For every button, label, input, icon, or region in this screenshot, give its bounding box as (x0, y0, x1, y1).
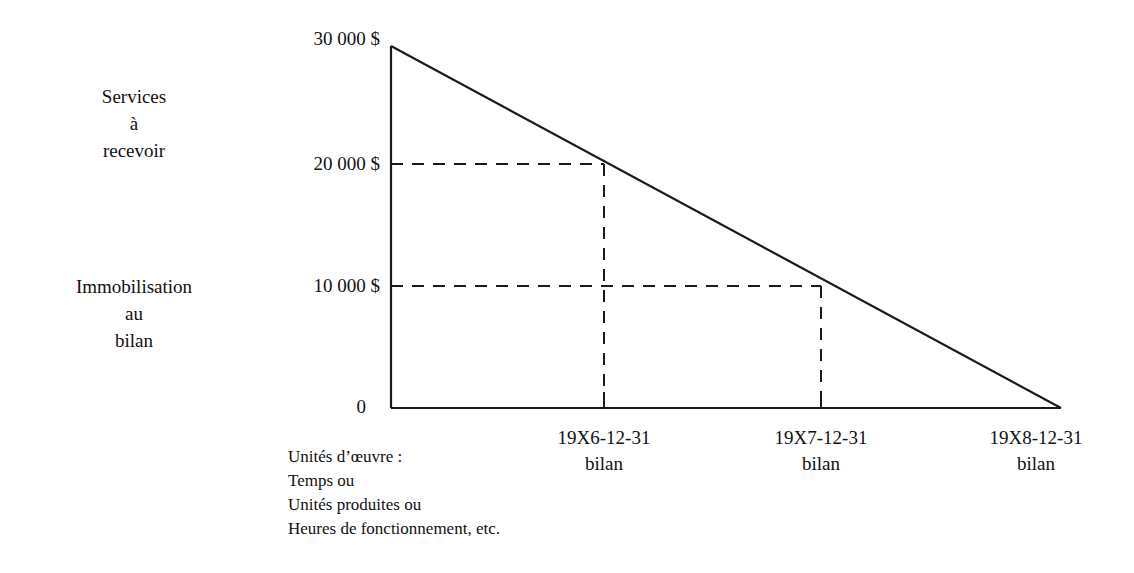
y-tick-label-0: 0 (180, 396, 366, 418)
x-tick-label-19x8-sub: bilan (940, 451, 1132, 477)
footnote-unites-doeuvre: Unités d’œuvre : Temps ou Unités produit… (288, 445, 500, 541)
y-tick-label-20000: 20 000 $ (180, 153, 380, 175)
x-tick-label-19x8: 19X8-12-31 bilan (940, 425, 1132, 477)
region-label-immobilisation-line3: bilan (115, 330, 153, 351)
x-tick-label-19x6: 19X6-12-31 bilan (508, 425, 700, 477)
y-tick-label-10000: 10 000 $ (180, 275, 380, 297)
region-label-services-line3: recevoir (103, 140, 165, 161)
footnote-line-2: Temps ou (288, 469, 500, 493)
x-tick-label-19x7-date: 19X7-12-31 (725, 425, 917, 451)
chart-figure: Services à recevoir Immobilisation au bi… (0, 0, 1134, 573)
footnote-line-1: Unités d’œuvre : (288, 445, 500, 469)
region-label-services-line2: à (130, 113, 138, 134)
x-tick-label-19x6-sub: bilan (508, 451, 700, 477)
y-tick-label-30000: 30 000 $ (180, 28, 380, 50)
x-tick-label-19x6-date: 19X6-12-31 (508, 425, 700, 451)
x-tick-label-19x7: 19X7-12-31 bilan (725, 425, 917, 477)
region-label-immobilisation-line2: au (125, 303, 143, 324)
region-label-services-line1: Services (102, 86, 166, 107)
x-tick-label-19x7-sub: bilan (725, 451, 917, 477)
region-label-services-a-recevoir: Services à recevoir (28, 83, 240, 164)
footnote-line-3: Unités produites ou (288, 493, 500, 517)
x-tick-label-19x8-date: 19X8-12-31 (940, 425, 1132, 451)
series-line-amortissement (391, 46, 1061, 408)
region-label-immobilisation-line1: Immobilisation (76, 276, 192, 297)
footnote-line-4: Heures de fonctionnement, etc. (288, 517, 500, 541)
